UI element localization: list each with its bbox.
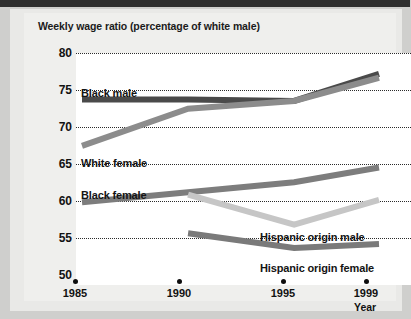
- y-axis-tick-65: 65: [42, 157, 72, 171]
- page-top-edge: [0, 0, 410, 7]
- chart-title: Weekly wage ratio (percentage of white m…: [38, 20, 260, 32]
- chart-figure: Weekly wage ratio (percentage of white m…: [24, 13, 396, 301]
- y-axis-tick-75: 75: [42, 83, 72, 97]
- x-axis-label: Year: [354, 301, 376, 313]
- series-label-black-male: Black male: [81, 87, 137, 99]
- x-axis-tick-1990: 1990: [149, 287, 209, 299]
- series-label-hispanic-male: Hispanic origin male: [260, 231, 365, 243]
- x-axis-tick-1995: 1995: [253, 287, 313, 299]
- x-axis-dot-1995: [281, 279, 286, 284]
- page-sheet: Weekly wage ratio (percentage of white m…: [10, 9, 402, 311]
- x-axis-tick-1999: 1999: [336, 287, 396, 299]
- series-label-black-female: Black female: [81, 189, 146, 201]
- y-axis-tick-70: 70: [42, 120, 72, 134]
- y-axis-tick-50: 50: [42, 268, 72, 282]
- x-axis-dot-1990: [177, 279, 182, 284]
- series-label-hispanic-female: Hispanic origin female: [260, 262, 374, 274]
- x-axis-dot-1999: [364, 279, 369, 284]
- x-axis-tick-1985: 1985: [45, 287, 105, 299]
- x-axis-dot-1985: [73, 279, 78, 284]
- y-axis-tick-55: 55: [42, 231, 72, 245]
- line-hispanic-male: [188, 195, 379, 225]
- y-axis-tick-80: 80: [42, 46, 72, 60]
- series-label-white-female: White female: [81, 157, 147, 169]
- y-axis-tick-60: 60: [42, 194, 72, 208]
